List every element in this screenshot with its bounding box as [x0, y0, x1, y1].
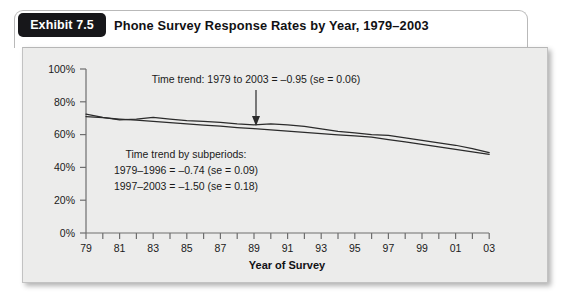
x-tick-label-99: 99 — [416, 242, 428, 254]
x-axis-tick-labels: 79 81 83 85 87 89 91 93 95 97 99 01 03 — [80, 242, 495, 254]
y-tick-label-40: 40% — [54, 161, 75, 173]
y-tick-label-0: 0% — [60, 227, 75, 239]
x-tick-label-83: 83 — [147, 242, 159, 254]
y-tick-label-100: 100% — [48, 63, 75, 75]
y-tick-label-20: 20% — [54, 194, 75, 206]
x-tick-label-89: 89 — [248, 242, 260, 254]
exhibit-number-label: Exhibit 7.5 — [30, 18, 94, 32]
x-tick-label-79: 79 — [80, 242, 92, 254]
exhibit-container: Exhibit 7.5 Phone Survey Response Rates … — [0, 0, 570, 302]
y-axis-tick-labels: 100% 80% 60% 40% 20% 0% — [48, 63, 75, 239]
overall-trend-annotation: Time trend: 1979 to 2003 = –0.95 (se = 0… — [152, 73, 361, 85]
y-axis-ticks — [80, 69, 86, 233]
x-tick-label-91: 91 — [282, 242, 294, 254]
subperiod-annotation-block: Time trend by subperiods: 1979–1996 = –0… — [114, 148, 258, 192]
exhibit-title: Phone Survey Response Rates by Year, 197… — [114, 18, 429, 33]
x-tick-label-01: 01 — [450, 242, 462, 254]
response-rate-line-chart: 100% 80% 60% 40% 20% 0% — [23, 48, 547, 282]
response-rate-line — [86, 114, 489, 153]
x-tick-label-03: 03 — [483, 242, 495, 254]
x-tick-label-95: 95 — [349, 242, 361, 254]
y-tick-label-60: 60% — [54, 128, 75, 140]
y-tick-label-80: 80% — [54, 96, 75, 108]
subperiod-line-1: 1979–1996 = –0.74 (se = 0.09) — [114, 164, 258, 176]
down-arrow-icon — [252, 90, 260, 126]
x-axis-ticks — [86, 233, 489, 239]
x-tick-label-93: 93 — [315, 242, 327, 254]
x-tick-label-87: 87 — [215, 242, 227, 254]
subperiod-header: Time trend by subperiods: — [125, 148, 246, 160]
x-tick-label-81: 81 — [114, 242, 126, 254]
x-tick-label-85: 85 — [181, 242, 193, 254]
chart-panel: 100% 80% 60% 40% 20% 0% — [22, 47, 548, 283]
x-axis-title: Year of Survey — [249, 259, 326, 271]
subperiod-line-2: 1997–2003 = –1.50 (se = 0.18) — [114, 180, 258, 192]
exhibit-number-tab: Exhibit 7.5 — [18, 13, 106, 37]
x-tick-label-97: 97 — [383, 242, 395, 254]
